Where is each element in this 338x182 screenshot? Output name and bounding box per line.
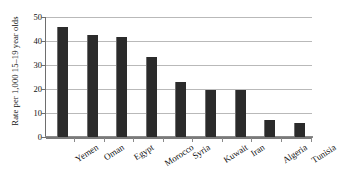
gridline-50 xyxy=(46,17,312,18)
y-tick-label-50: 50 xyxy=(12,13,42,22)
y-tick-label-10: 10 xyxy=(12,109,42,118)
y-tick-mark-20 xyxy=(41,89,46,90)
x-tick-mark-1 xyxy=(104,138,105,142)
y-tick-mark-10 xyxy=(41,113,46,114)
y-tick-mark-0 xyxy=(41,137,46,138)
plot-area xyxy=(46,17,312,137)
bar-oman xyxy=(87,35,98,137)
x-tick-mark-3 xyxy=(163,138,164,142)
bar-iran xyxy=(235,90,246,137)
x-label-syria: Syria xyxy=(191,143,212,161)
gridline-0 xyxy=(46,137,312,139)
x-label-morocco: Morocco xyxy=(164,143,196,168)
x-label-algeria: Algeria xyxy=(281,143,309,165)
y-tick-mark-30 xyxy=(41,65,46,66)
x-label-tunisia: Tunisia xyxy=(310,143,337,165)
y-tick-label-30: 30 xyxy=(12,61,42,70)
x-tick-mark-5 xyxy=(222,138,223,142)
y-tick-mark-40 xyxy=(41,41,46,42)
y-tick-label-20: 20 xyxy=(12,85,42,94)
x-tick-mark-7 xyxy=(281,138,282,142)
x-tick-mark-4 xyxy=(192,138,193,142)
bar-morocco xyxy=(146,57,157,137)
bar-kuwait xyxy=(205,90,216,137)
x-label-yemen: Yemen xyxy=(74,143,100,164)
x-label-iran: Iran xyxy=(249,143,266,158)
x-tick-mark-0 xyxy=(74,138,75,142)
x-label-oman: Oman xyxy=(103,143,126,163)
bar-syria xyxy=(175,82,186,137)
x-tick-mark-6 xyxy=(251,138,252,142)
x-label-egypt: Egypt xyxy=(132,143,155,162)
bar-tunisia xyxy=(294,123,305,137)
bar-yemen xyxy=(57,27,68,137)
x-tick-mark-8 xyxy=(311,138,312,142)
y-tick-mark-50 xyxy=(41,17,46,18)
x-tick-mark-2 xyxy=(133,138,134,142)
bar-algeria xyxy=(264,120,275,137)
y-tick-label-40: 40 xyxy=(12,37,42,46)
y-tick-label-0: 0 xyxy=(12,133,42,142)
x-label-kuwait: Kuwait xyxy=(222,143,249,165)
bar-egypt xyxy=(116,37,127,137)
